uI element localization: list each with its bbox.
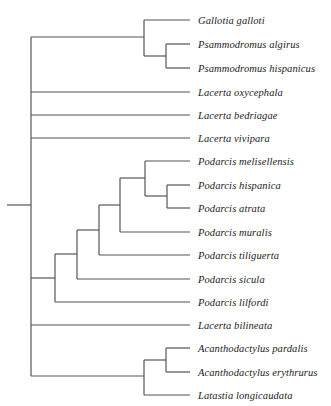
- taxon-label-lacerta-vivipara: Lacerta vivipara: [198, 133, 270, 144]
- taxon-label-podarcis-muralis: Podarcis muralis: [198, 227, 272, 238]
- taxon-label-lacerta-oxycephala: Lacerta oxycephala: [198, 87, 283, 98]
- taxon-label-layer: Gallotia gallotiPsammodromus algirusPsam…: [0, 0, 331, 406]
- taxon-label-psammodromus-hispanicus: Psammodromus hispanicus: [198, 63, 315, 74]
- taxon-label-latastia-longicaudata: Latastia longicaudata: [198, 390, 293, 401]
- phylogenetic-tree-figure: Gallotia gallotiPsammodromus algirusPsam…: [0, 0, 331, 406]
- taxon-label-podarcis-atrata: Podarcis atrata: [198, 203, 265, 214]
- taxon-label-acanthodactylus-pardalis: Acanthodactylus pardalis: [198, 343, 308, 354]
- taxon-label-podarcis-sicula: Podarcis sicula: [198, 274, 265, 285]
- taxon-label-podarcis-hispanica: Podarcis hispanica: [198, 180, 281, 191]
- taxon-label-gallotia-galloti: Gallotia galloti: [198, 15, 265, 26]
- taxon-label-podarcis-tiliguerta: Podarcis tiliguerta: [198, 250, 279, 261]
- taxon-label-podarcis-lilfordi: Podarcis lilfordi: [198, 297, 269, 308]
- taxon-label-psammodromus-algirus: Psammodromus algirus: [198, 39, 300, 50]
- taxon-label-lacerta-bedriagae: Lacerta bedriagae: [198, 110, 278, 121]
- taxon-label-podarcis-melisellensis: Podarcis melisellensis: [198, 156, 294, 167]
- taxon-label-acanthodactylus-erythrurus: Acanthodactylus erythrurus: [198, 367, 318, 378]
- taxon-label-lacerta-bilineata: Lacerta bilineata: [198, 320, 272, 331]
